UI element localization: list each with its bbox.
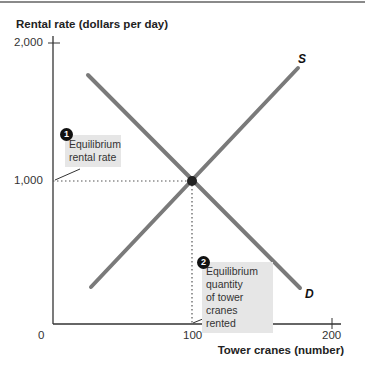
note1-line1: Equilibrium: [69, 138, 117, 151]
equilibrium-point: [187, 176, 197, 186]
note2-line4: cranes rented: [206, 304, 269, 330]
demand-curve-label: D: [305, 287, 314, 301]
equilibrium-quantity-note: Equilibrium quantity of tower cranes ren…: [202, 262, 273, 333]
note2-line2: quantity: [206, 278, 269, 291]
x-axis-label: Tower cranes (number): [218, 344, 344, 356]
note2-line3: of tower: [206, 291, 269, 304]
y-axis-label: Rental rate (dollars per day): [16, 18, 168, 30]
x-tick-label-100: 100: [183, 329, 202, 341]
supply-curve-label: S: [298, 52, 306, 66]
note1-number-badge: 1: [60, 128, 73, 141]
y-tick-label-2000: 2,000: [14, 36, 43, 48]
equilibrium-rental-rate-note: Equilibrium rental rate: [65, 135, 121, 167]
note1-leader-line: [55, 169, 80, 180]
x-tick-label-200: 200: [322, 329, 341, 341]
note2-line1: Equilibrium: [206, 265, 269, 278]
note2-number-badge: 2: [197, 256, 210, 269]
note1-line2: rental rate: [69, 151, 117, 164]
chart-plot-area: [0, 0, 365, 378]
y-tick-label-1000: 1,000: [14, 174, 43, 186]
x-tick-label-0: 0: [38, 329, 44, 341]
